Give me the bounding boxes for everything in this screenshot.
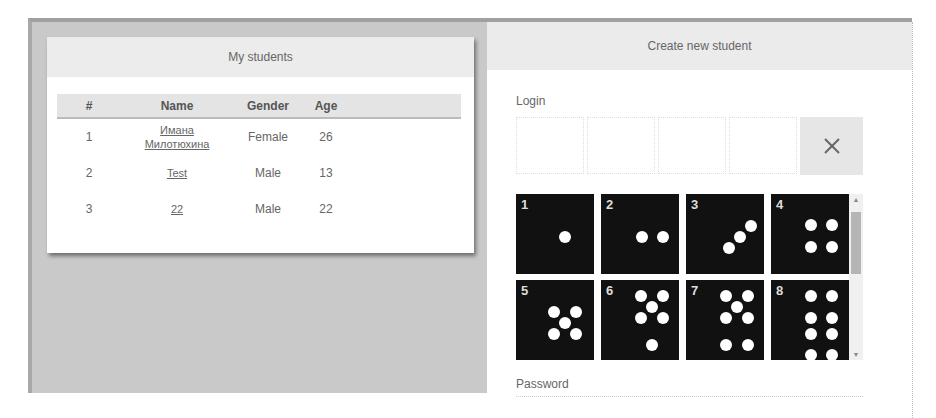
scroll-thumb[interactable] [851, 212, 861, 274]
dice-tile-6[interactable]: 6 [601, 280, 679, 360]
login-slot-2[interactable] [587, 117, 655, 174]
table-row: 3 22 Male 22 [57, 191, 461, 227]
login-slot-3[interactable] [658, 117, 726, 174]
pip-icon [826, 349, 838, 360]
pip-icon [731, 301, 743, 313]
create-student-title: Create new student [487, 22, 912, 70]
pip-icon [742, 339, 754, 351]
row-name-cell: ИманаМилотюхина [121, 118, 233, 155]
pip-icon [548, 306, 560, 318]
password-label: Password [516, 377, 569, 391]
scroll-up-arrow-icon[interactable]: ▲ [849, 196, 863, 203]
pip-icon [745, 220, 757, 232]
pip-icon [570, 328, 582, 340]
table-row: 1 ИманаМилотюхина Female 26 [57, 118, 461, 155]
row-gender: Female [233, 118, 303, 155]
pip-icon [826, 328, 838, 340]
dice-tile-4[interactable]: 4 [771, 194, 849, 274]
column-header-name: Name [121, 94, 233, 118]
create-student-panel: Create new student Login 1 2 3 4 [487, 22, 913, 418]
pip-icon [570, 306, 582, 318]
pip-icon [646, 339, 658, 351]
pip-icon [559, 231, 571, 243]
pip-icon [548, 328, 560, 340]
pip-icon [720, 290, 732, 302]
pip-icon [805, 219, 817, 231]
clear-login-button[interactable] [800, 117, 863, 175]
password-field[interactable] [516, 396, 863, 397]
students-table: # Name Gender Age 1 ИманаМилотюхина Fema… [57, 94, 461, 227]
pip-icon [826, 219, 838, 231]
dice-tile-5[interactable]: 5 [516, 280, 594, 360]
pip-icon [720, 312, 732, 324]
dice-tile-1[interactable]: 1 [516, 194, 594, 274]
pip-icon [742, 290, 754, 302]
pip-icon [805, 328, 817, 340]
pip-icon [805, 312, 817, 324]
pip-icon [635, 290, 647, 302]
student-name-link[interactable]: Test [167, 167, 187, 179]
dice-tile-3[interactable]: 3 [686, 194, 764, 274]
pip-icon [657, 312, 669, 324]
row-name-cell: Test [121, 155, 233, 191]
dice-tile-8[interactable]: 8 [771, 280, 849, 360]
student-name-link[interactable]: ИманаМилотюхина [145, 124, 210, 150]
dice-grid-scrollbar[interactable]: ▲ ▼ [849, 194, 863, 360]
dice-tile-2[interactable]: 2 [601, 194, 679, 274]
pip-icon [720, 339, 732, 351]
pip-icon [734, 231, 746, 243]
row-number: 2 [57, 155, 121, 191]
student-name-link[interactable]: 22 [171, 203, 183, 215]
pip-icon [826, 241, 838, 253]
row-gender: Male [233, 155, 303, 191]
row-age: 13 [303, 155, 349, 191]
scroll-down-arrow-icon[interactable]: ▼ [849, 351, 863, 358]
table-row: 2 Test Male 13 [57, 155, 461, 191]
dice-tile-7[interactable]: 7 [686, 280, 764, 360]
row-age: 22 [303, 191, 349, 227]
pip-icon [742, 312, 754, 324]
login-label: Login [516, 94, 545, 108]
column-header-age: Age [303, 94, 349, 118]
pip-icon [657, 231, 669, 243]
pip-icon [826, 312, 838, 324]
column-header-spacer [349, 94, 461, 118]
pip-icon [805, 290, 817, 302]
row-name-cell: 22 [121, 191, 233, 227]
dice-picker-grid: 1 2 3 4 5 [516, 194, 849, 360]
my-students-card: My students # Name Gender Age 1 ИманаМил… [47, 37, 474, 253]
column-header-gender: Gender [233, 94, 303, 118]
row-age: 26 [303, 118, 349, 155]
pip-icon [646, 301, 658, 313]
pip-icon [723, 242, 735, 254]
close-icon [822, 136, 842, 156]
login-slot-1[interactable] [516, 117, 584, 174]
pip-icon [657, 290, 669, 302]
pip-icon [636, 231, 648, 243]
pip-icon [805, 241, 817, 253]
row-number: 1 [57, 118, 121, 155]
my-students-title: My students [47, 37, 474, 77]
column-header-number: # [57, 94, 121, 118]
pip-icon [635, 312, 647, 324]
table-header-row: # Name Gender Age [57, 94, 461, 118]
login-slot-4[interactable] [729, 117, 797, 174]
pip-icon [826, 290, 838, 302]
row-number: 3 [57, 191, 121, 227]
pip-icon [805, 349, 817, 360]
row-gender: Male [233, 191, 303, 227]
pip-icon [559, 317, 571, 329]
